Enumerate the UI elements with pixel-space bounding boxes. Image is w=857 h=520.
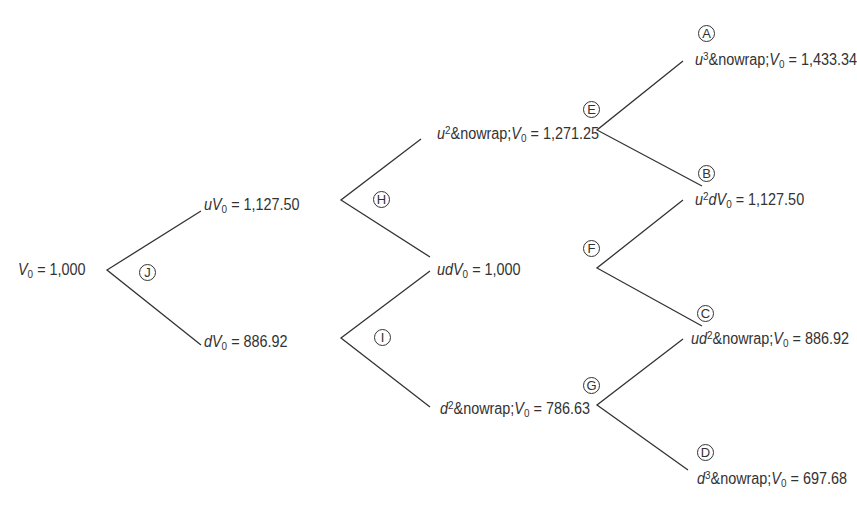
variable: V bbox=[212, 196, 222, 213]
variable: V bbox=[773, 330, 783, 347]
marker-h-icon: H bbox=[373, 191, 390, 208]
node-value: 786.63 bbox=[546, 400, 590, 417]
equals: = bbox=[788, 51, 796, 68]
node-d-label: dV0 = 886.92 bbox=[204, 333, 288, 351]
subscript: 0 bbox=[779, 58, 785, 70]
subscript: 0 bbox=[521, 132, 527, 144]
node-value: 697.68 bbox=[803, 470, 847, 487]
marker-d-icon: D bbox=[697, 444, 714, 461]
node-value: 886.92 bbox=[244, 333, 288, 350]
variable: V bbox=[212, 333, 222, 350]
node-value: 1,433.34 bbox=[801, 51, 857, 68]
marker-b-icon: B bbox=[698, 165, 715, 182]
node-power: 3 bbox=[705, 469, 711, 481]
node-suffix: d bbox=[709, 191, 717, 208]
node-root-label: V0 = 1,000 bbox=[18, 261, 86, 279]
equals: = bbox=[472, 261, 480, 278]
subscript: 0 bbox=[783, 337, 789, 349]
subscript: 0 bbox=[781, 477, 787, 489]
marker-f-icon: F bbox=[583, 240, 600, 257]
node-prefix: u bbox=[695, 51, 703, 68]
subscript: 0 bbox=[524, 407, 530, 419]
node-prefix: u bbox=[695, 191, 703, 208]
variable: V bbox=[453, 261, 463, 278]
equals: = bbox=[736, 191, 744, 208]
node-ud-label: udV0 = 1,000 bbox=[437, 261, 521, 279]
node-value: 1,000 bbox=[485, 261, 521, 278]
node-value: 886.92 bbox=[805, 330, 849, 347]
node-power: 2 bbox=[448, 399, 454, 411]
node-prefix: d bbox=[440, 400, 448, 417]
marker-e-icon: E bbox=[583, 101, 600, 118]
branch-g bbox=[597, 339, 688, 470]
equals: = bbox=[530, 125, 538, 142]
node-power: 2 bbox=[707, 329, 713, 341]
marker-i-icon: I bbox=[374, 329, 391, 346]
variable: V bbox=[717, 191, 727, 208]
variable: V bbox=[514, 400, 524, 417]
node-prefix: ud bbox=[437, 261, 453, 278]
node-udd-label: ud2&nowrap;V0 = 886.92 bbox=[691, 330, 849, 348]
node-ddd-label: d3&nowrap;V0 = 697.68 bbox=[697, 470, 847, 488]
equals: = bbox=[231, 333, 239, 350]
equals: = bbox=[790, 470, 798, 487]
node-value: 1,127.50 bbox=[244, 196, 300, 213]
subscript: 0 bbox=[222, 340, 228, 352]
marker-c-icon: C bbox=[697, 305, 714, 322]
variable: V bbox=[511, 125, 521, 142]
equals: = bbox=[37, 261, 45, 278]
node-power: 2 bbox=[445, 124, 451, 136]
node-uud-label: u2dV0 = 1,127.50 bbox=[695, 191, 804, 209]
equals: = bbox=[792, 330, 800, 347]
variable: V bbox=[769, 51, 779, 68]
marker-j-icon: J bbox=[139, 264, 156, 281]
node-prefix: d bbox=[697, 470, 705, 487]
subscript: 0 bbox=[28, 268, 34, 280]
node-u-label: uV0 = 1,127.50 bbox=[204, 196, 300, 214]
node-uuu-label: u3&nowrap;V0 = 1,433.34 bbox=[695, 51, 857, 69]
subscript: 0 bbox=[726, 198, 732, 210]
marker-g-icon: G bbox=[583, 377, 600, 394]
node-prefix: u bbox=[204, 196, 212, 213]
branch-f bbox=[597, 200, 702, 326]
branch-j bbox=[107, 211, 201, 345]
node-prefix: ud bbox=[691, 330, 707, 347]
node-prefix: u bbox=[437, 125, 445, 142]
equals: = bbox=[533, 400, 541, 417]
node-value: 1,271.25 bbox=[543, 125, 599, 142]
node-uu-label: u2&nowrap;V0 = 1,271.25 bbox=[437, 125, 599, 143]
node-value: 1,000 bbox=[50, 261, 86, 278]
node-prefix: d bbox=[204, 333, 212, 350]
node-power: 3 bbox=[703, 50, 709, 62]
variable: V bbox=[771, 470, 781, 487]
subscript: 0 bbox=[222, 203, 228, 215]
node-value: 1,127.50 bbox=[748, 191, 804, 208]
marker-a-icon: A bbox=[698, 25, 715, 42]
subscript: 0 bbox=[463, 268, 469, 280]
node-dd-label: d2&nowrap;V0 = 786.63 bbox=[440, 400, 590, 418]
variable: V bbox=[18, 261, 28, 278]
equals: = bbox=[231, 196, 239, 213]
branch-e bbox=[597, 61, 702, 186]
